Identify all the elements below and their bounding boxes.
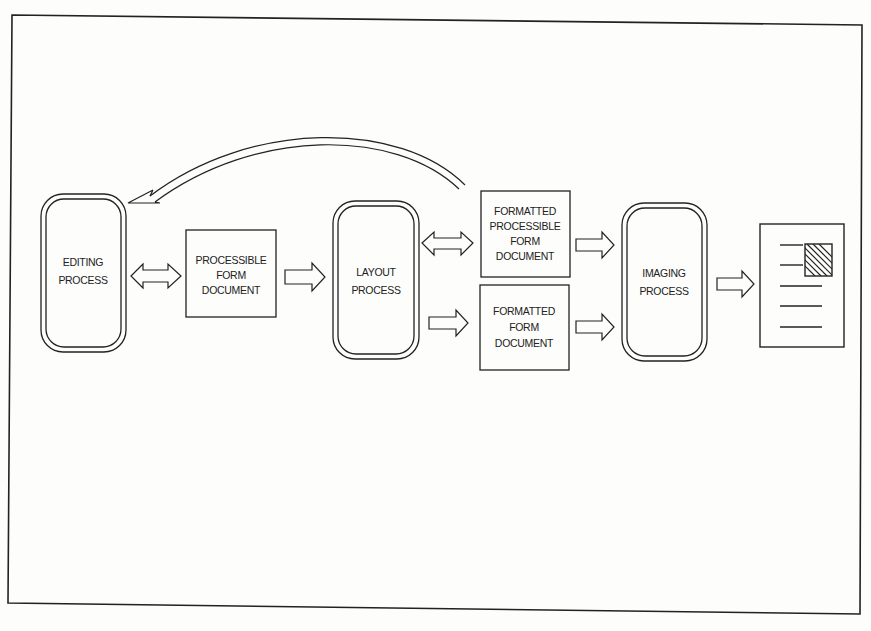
- doc-label: DOCUMENT: [495, 337, 554, 349]
- printed-page-icon: [760, 224, 851, 347]
- doc-label: PROCESSIBLE: [490, 220, 561, 232]
- doc-label: FORM: [509, 321, 539, 333]
- layout-process-label-2: PROCESS: [351, 284, 401, 296]
- processible-form-document: PROCESSIBLE FORM DOCUMENT: [186, 230, 276, 317]
- feedback-arrow: [128, 138, 465, 203]
- right-arrow-icon: [285, 263, 325, 291]
- right-arrow-icon: [717, 271, 754, 297]
- doc-label: FORM: [216, 269, 246, 281]
- doc-label: FORMATTED: [494, 205, 557, 217]
- formatted-form-document: FORMATTED FORM DOCUMENT: [480, 285, 569, 370]
- bidirectional-arrow-icon: [422, 232, 473, 255]
- imaging-process: IMAGING PROCESS: [622, 203, 707, 361]
- doc-label: FORM: [510, 235, 540, 247]
- imaging-process-label-2: PROCESS: [639, 285, 689, 297]
- right-arrow-icon: [429, 310, 468, 336]
- layout-process-label-1: LAYOUT: [356, 266, 396, 278]
- right-arrow-icon: [576, 314, 614, 340]
- doc-label: FORMATTED: [493, 305, 556, 317]
- bidirectional-arrow-icon: [131, 264, 181, 288]
- layout-process: LAYOUT PROCESS: [333, 201, 419, 359]
- imaging-process-label-1: IMAGING: [642, 267, 686, 279]
- right-arrow-icon: [576, 232, 614, 258]
- formatted-processible-form-document: FORMATTED PROCESSIBLE FORM DOCUMENT: [481, 191, 570, 277]
- doc-label: DOCUMENT: [496, 250, 555, 262]
- doc-label: DOCUMENT: [202, 284, 261, 296]
- doc-label: PROCESSIBLE: [196, 254, 267, 266]
- editing-process-label-2: PROCESS: [58, 274, 108, 286]
- document-processing-diagram: EDITING PROCESS PROCESSIBLE FORM DOCUMEN…: [0, 0, 871, 631]
- editing-process: EDITING PROCESS: [41, 194, 126, 352]
- editing-process-label-1: EDITING: [63, 256, 104, 268]
- frame-border: [8, 15, 862, 614]
